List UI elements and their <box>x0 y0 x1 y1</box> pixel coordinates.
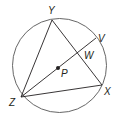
label-y: Y <box>48 5 56 16</box>
label-x: X <box>103 86 111 97</box>
label-w: W <box>84 50 95 61</box>
geometry-diagram: Y V W P X Z <box>0 0 120 120</box>
label-v: V <box>98 33 106 44</box>
diagram-canvas: Y V W P X Z <box>0 0 120 120</box>
label-p: P <box>61 68 68 79</box>
circle-p <box>13 19 107 113</box>
segment-yz <box>21 20 52 97</box>
segment-zx <box>21 85 102 97</box>
center-point-p <box>56 66 60 70</box>
label-z: Z <box>8 97 16 108</box>
